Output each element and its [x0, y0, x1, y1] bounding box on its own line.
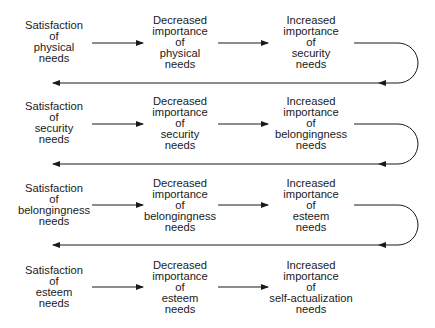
node-satisfaction-belongingness-needs: Satisfaction of belongingness needs — [18, 183, 90, 227]
loop-arrowhead-3 — [378, 242, 386, 248]
loop-arrowhead-2 — [378, 161, 386, 167]
loop-arrow-r3-to-r4 — [53, 205, 418, 245]
node-decreased-importance-belongingness-needs: Decreased importance of belongingness ne… — [144, 178, 216, 233]
node-increased-importance-belongingness-needs: Increased importance of belongingness ne… — [275, 96, 347, 151]
node-increased-importance-security-needs: Increased importance of security needs — [283, 15, 338, 70]
loop-arrow-r2-to-r3 — [53, 124, 418, 164]
node-decreased-importance-esteem-needs: Decreased importance of esteem needs — [152, 260, 207, 315]
loop-arrow-r1-to-r2 — [53, 43, 418, 83]
node-satisfaction-esteem-needs: Satisfaction of esteem needs — [25, 265, 83, 309]
node-decreased-importance-security-needs: Decreased importance of security needs — [152, 96, 207, 151]
node-increased-importance-self-actualization-needs: Increased importance of self-actualizati… — [269, 260, 352, 315]
node-satisfaction-physical-needs: Satisfaction of physical needs — [25, 20, 83, 64]
node-increased-importance-esteem-needs: Increased importance of esteem needs — [283, 178, 338, 233]
node-decreased-importance-physical-needs: Decreased importance of physical needs — [152, 15, 207, 70]
node-satisfaction-security-needs: Satisfaction of security needs — [25, 101, 83, 145]
loop-arrowhead-1 — [378, 80, 386, 86]
